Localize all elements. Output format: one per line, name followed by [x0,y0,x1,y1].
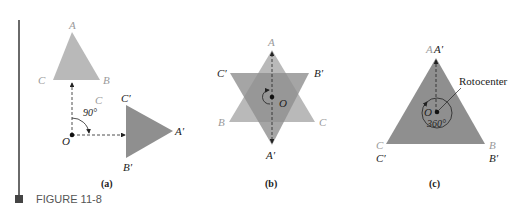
label-A-prime: A′ [265,149,276,161]
panel-a: A C B O C 90° C′ B′ A′ (a) [38,19,185,190]
angle-label: 90° [83,107,97,118]
center-dot [435,110,440,115]
center-dot [70,133,75,138]
label-B-prime: B′ [123,161,133,173]
label-A: A [267,36,275,48]
original-triangle [53,32,100,80]
angle-label: 360° [426,118,446,129]
label-C-stray: C [95,94,103,106]
label-C: C [38,74,46,86]
label-A: A [68,19,76,31]
label-B-prime: B′ [314,67,324,79]
label-B-prime: B′ [489,152,499,164]
panel-c: Rotocenter O 360° A A′ C C′ B B′ (c) [376,43,508,190]
label-B: B [103,74,110,86]
panel-a-caption: (a) [101,178,113,190]
label-O: O [279,97,287,109]
coincident-triangle [386,58,485,144]
image-triangle [126,105,173,158]
label-O: O [424,106,432,118]
rotation-arc [72,118,89,133]
panel-b-caption: (b) [265,178,277,190]
panel-c-caption: (c) [429,178,440,190]
label-A-prime: A′ [433,43,444,55]
label-B: B [489,139,496,151]
label-C-prime: C′ [376,152,386,164]
label-O: O [62,135,70,147]
label-C-prime: C′ [121,92,131,104]
figure-canvas: FIGURE 11-8 A C B O C 90° C′ B′ A′ (a) O… [0,0,523,218]
panel-b: O A B C C′ B′ A′ (b) [217,36,327,190]
figure-caption: FIGURE 11-8 [36,193,102,205]
accent-bar [18,20,20,196]
figure-square-icon [15,195,23,203]
center-dot [270,95,275,100]
rotocenter-label: Rotocenter [459,75,508,87]
label-C: C [319,116,327,128]
label-A: A [425,43,433,55]
label-A-prime: A′ [174,125,185,137]
label-B: B [218,116,225,128]
label-C: C [376,139,384,151]
label-C-prime: C′ [217,67,227,79]
